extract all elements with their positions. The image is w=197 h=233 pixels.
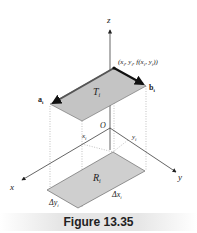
y-axis-label: y xyxy=(177,172,182,182)
delta-x-label: Δxi xyxy=(111,190,122,200)
figure-caption: Figure 13.35 xyxy=(0,213,197,231)
vector-b-label: bi xyxy=(149,83,155,93)
z-axis-label: z xyxy=(106,15,111,25)
y-i-label: yi xyxy=(131,133,137,142)
x-i-label: xi xyxy=(81,132,87,141)
point-label: (xi, yi, f(xi, yi)) xyxy=(118,58,158,67)
origin-label: O xyxy=(100,121,106,130)
point-marker xyxy=(112,66,115,69)
grid-guides xyxy=(82,140,128,152)
delta-y-label: Δyi xyxy=(48,198,59,208)
diagram-canvas: z x y O (xi, yi, f(xi, yi)) ai bi Ti Ri … xyxy=(0,0,197,233)
vector-a-label: ai xyxy=(38,95,44,105)
x-axis-label: x xyxy=(9,182,14,192)
